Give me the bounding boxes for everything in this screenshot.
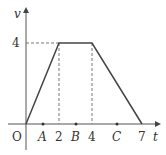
v-t-curve xyxy=(26,43,142,124)
x-tick-4: 4 xyxy=(88,130,96,144)
point-A xyxy=(42,123,45,126)
point-C xyxy=(116,123,119,126)
x-tick-2: 2 xyxy=(55,130,63,144)
velocity-time-graph: v 4 O A 2 B 4 C 7 t xyxy=(0,0,166,155)
v-axis-label: v xyxy=(14,7,21,21)
origin-label: O xyxy=(12,130,22,144)
label-A: A xyxy=(37,130,47,144)
x-tick-7: 7 xyxy=(138,130,146,144)
label-C: C xyxy=(112,130,121,144)
point-B xyxy=(75,123,78,126)
y-tick-4: 4 xyxy=(12,36,20,50)
label-B: B xyxy=(70,130,80,144)
t-axis-label: t xyxy=(153,130,158,144)
